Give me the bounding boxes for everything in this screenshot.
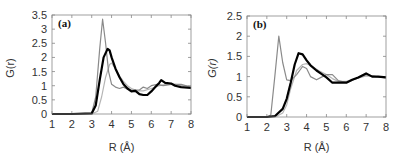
panel-b-frame — [247, 16, 386, 117]
y-tick-label: 1.5 — [32, 66, 47, 78]
x-tick-label: 1 — [49, 118, 55, 130]
series-gray-light — [52, 63, 191, 114]
panel-a: 1234567800.511.522.533.5 (a) R (Å) G(r) — [4, 9, 194, 153]
x-tick-label: 3 — [89, 118, 95, 130]
y-tick-label: 0 — [236, 111, 242, 123]
y-tick-label: 2 — [41, 51, 47, 63]
series-black-thick — [52, 49, 191, 114]
x-tick-label: 2 — [264, 121, 270, 133]
panel-a-label: (a) — [58, 17, 71, 30]
series-gray-sharp — [52, 19, 191, 114]
x-tick-label: 7 — [168, 118, 174, 130]
x-tick-label: 4 — [109, 118, 115, 130]
y-tick-label: 2.5 — [32, 37, 47, 49]
x-tick-label: 2 — [69, 118, 75, 130]
y-tick-label: 1 — [41, 80, 47, 92]
x-tick-label: 7 — [363, 121, 369, 133]
series-black-thick — [247, 53, 386, 117]
x-tick-label: 5 — [128, 118, 134, 130]
y-tick-label: 1 — [236, 71, 242, 83]
x-tick-label: 6 — [343, 121, 349, 133]
y-tick-label: 0.5 — [32, 94, 47, 106]
x-tick-label: 6 — [148, 118, 154, 130]
y-tick-label: 1.5 — [227, 50, 242, 62]
x-tick-label: 3 — [284, 121, 290, 133]
panel-a-xlabel: R (Å) — [109, 141, 135, 153]
y-tick-label: 2.5 — [227, 10, 242, 22]
panel-a-curves — [52, 19, 191, 114]
y-tick-label: 2 — [236, 30, 242, 42]
x-tick-label: 8 — [188, 118, 194, 130]
panel-b-ylabel: G(r) — [206, 58, 218, 78]
panel-b-label: (b) — [253, 18, 267, 31]
x-tick-label: 4 — [304, 121, 310, 133]
y-tick-label: 3.5 — [32, 9, 47, 21]
y-tick-label: 3 — [41, 23, 47, 35]
figure: 1234567800.511.522.533.5 (a) R (Å) G(r) … — [0, 0, 398, 161]
x-tick-label: 5 — [323, 121, 329, 133]
y-tick-label: 0 — [41, 108, 47, 120]
panel-a-ticks: 1234567800.511.522.533.5 — [32, 9, 194, 130]
panel-a-frame — [52, 15, 191, 114]
x-tick-label: 1 — [244, 121, 250, 133]
panel-b-curves — [247, 36, 386, 117]
x-tick-label: 8 — [383, 121, 389, 133]
panel-a-ylabel: G(r) — [4, 58, 16, 78]
panel-b-xlabel: R (Å) — [304, 141, 330, 153]
panel-b: 1234567800.511.522.5 (b) R (Å) G(r) — [206, 10, 389, 153]
y-tick-label: 0.5 — [227, 91, 242, 103]
